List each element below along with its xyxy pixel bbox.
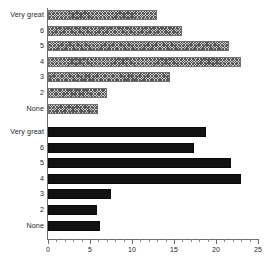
- x-tick-major: [132, 239, 133, 244]
- x-tick-minor: [115, 239, 116, 242]
- bar-row: None: [0, 221, 270, 231]
- bar-row: Very great: [0, 127, 270, 137]
- bar-row: 5: [0, 158, 270, 168]
- bar: [48, 189, 111, 199]
- x-tick-minor: [124, 239, 125, 242]
- bar-row: 2: [0, 88, 270, 98]
- category-label: 6: [0, 25, 44, 36]
- bar: [48, 205, 97, 215]
- bar-row: None: [0, 104, 270, 114]
- x-tick-minor: [65, 239, 66, 242]
- x-tick-label: 25: [254, 246, 262, 253]
- x-tick-label: 15: [170, 246, 178, 253]
- bar-row: 5: [0, 41, 270, 51]
- bar: [48, 41, 229, 51]
- bar-row: 3: [0, 72, 270, 82]
- x-tick-minor: [224, 239, 225, 242]
- bar-row: 4: [0, 174, 270, 184]
- bar-row: 6: [0, 26, 270, 36]
- bar: [48, 127, 206, 137]
- category-label: 3: [0, 188, 44, 199]
- x-tick-minor: [208, 239, 209, 242]
- bar-row: Very great: [0, 10, 270, 20]
- plot-area: Very great65432NoneVery great65432None 0…: [0, 0, 270, 261]
- bar-chart: Very great65432NoneVery great65432None 0…: [0, 0, 270, 261]
- category-label: 2: [0, 87, 44, 98]
- x-tick-minor: [250, 239, 251, 242]
- bar: [48, 174, 241, 184]
- bar-row: 4: [0, 57, 270, 67]
- x-tick-label: 5: [88, 246, 92, 253]
- bar: [48, 88, 107, 98]
- category-label: 5: [0, 157, 44, 168]
- category-label: Very great: [0, 9, 44, 20]
- category-label: 6: [0, 142, 44, 153]
- x-tick-minor: [166, 239, 167, 242]
- bar: [48, 221, 100, 231]
- category-label: None: [0, 103, 44, 114]
- category-label: 4: [0, 173, 44, 184]
- x-tick-minor: [233, 239, 234, 242]
- bar: [48, 72, 170, 82]
- bar: [48, 10, 157, 20]
- x-tick-label: 10: [128, 246, 136, 253]
- x-tick-minor: [149, 239, 150, 242]
- x-tick-major: [216, 239, 217, 244]
- x-tick-minor: [191, 239, 192, 242]
- x-tick-minor: [98, 239, 99, 242]
- x-tick-minor: [182, 239, 183, 242]
- x-tick-minor: [157, 239, 158, 242]
- x-tick-minor: [56, 239, 57, 242]
- bar-row: 3: [0, 189, 270, 199]
- bar: [48, 57, 241, 67]
- x-tick-minor: [241, 239, 242, 242]
- x-tick-minor: [82, 239, 83, 242]
- bar-row: 6: [0, 143, 270, 153]
- bar: [48, 104, 98, 114]
- x-axis-line: [47, 239, 258, 240]
- category-label: 2: [0, 204, 44, 215]
- bar: [48, 143, 194, 153]
- bar: [48, 26, 182, 36]
- bar: [48, 158, 231, 168]
- x-tick-major: [48, 239, 49, 244]
- x-tick-minor: [107, 239, 108, 242]
- x-tick-major: [90, 239, 91, 244]
- category-label: None: [0, 220, 44, 231]
- x-tick-minor: [199, 239, 200, 242]
- x-tick-major: [258, 239, 259, 244]
- category-label: 5: [0, 40, 44, 51]
- bar-row: 2: [0, 205, 270, 215]
- category-label: 4: [0, 56, 44, 67]
- x-tick-minor: [140, 239, 141, 242]
- x-tick-minor: [73, 239, 74, 242]
- x-tick-label: 0: [46, 246, 50, 253]
- x-tick-label: 20: [212, 246, 220, 253]
- category-label: 3: [0, 71, 44, 82]
- x-tick-major: [174, 239, 175, 244]
- category-label: Very great: [0, 126, 44, 137]
